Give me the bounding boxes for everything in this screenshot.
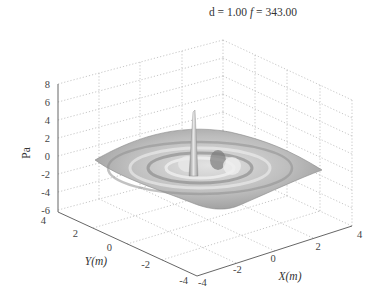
svg-text:0: 0 — [107, 242, 112, 253]
svg-text:4: 4 — [357, 229, 363, 240]
surface-plot: d = 1.00 f = 343.00 — [0, 0, 380, 300]
svg-text:2: 2 — [73, 228, 78, 239]
svg-text:-4: -4 — [41, 187, 50, 198]
chart-title: d = 1.00 f = 343.00 — [209, 6, 297, 19]
pressure-surface — [95, 110, 322, 209]
svg-text:-2: -2 — [141, 259, 150, 270]
svg-text:8: 8 — [45, 79, 50, 90]
svg-text:-4: -4 — [179, 275, 188, 286]
svg-text:-2: -2 — [233, 264, 242, 275]
svg-text:2: 2 — [315, 241, 320, 252]
y-axis-ticks: 4 2 0 -2 -4 — [41, 215, 189, 286]
svg-text:4: 4 — [41, 215, 47, 226]
y-axis-label: Y(m) — [85, 255, 108, 268]
svg-text:0: 0 — [45, 151, 50, 162]
x-axis-label: X(m) — [278, 270, 302, 283]
svg-text:0: 0 — [270, 253, 275, 264]
svg-text:4: 4 — [45, 115, 51, 126]
svg-text:-4: -4 — [198, 277, 207, 288]
svg-text:-2: -2 — [41, 169, 50, 180]
z-axis-label: Pa — [20, 147, 32, 159]
svg-text:6: 6 — [45, 97, 50, 108]
svg-text:2: 2 — [45, 133, 50, 144]
z-axis-ticks: 8 6 4 2 0 -2 -4 -6 — [41, 79, 51, 216]
